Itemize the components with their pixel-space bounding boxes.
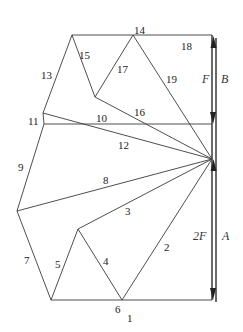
label-2F: 2F [193, 229, 207, 243]
label-11: 11 [28, 115, 39, 127]
label-14: 14 [134, 24, 146, 36]
arrow-down-icon [210, 112, 216, 124]
member-15-line [72, 35, 95, 97]
label-A: A [221, 229, 230, 243]
label-15: 15 [79, 49, 91, 61]
member-7-line [17, 211, 51, 300]
label-8: 8 [103, 174, 109, 186]
label-10: 10 [96, 112, 108, 124]
label-18: 18 [181, 40, 193, 52]
label-13: 13 [41, 69, 53, 81]
label-9: 9 [18, 161, 24, 173]
label-6: 6 [115, 303, 121, 315]
arrow-down-icon [210, 288, 216, 300]
member-4-line [78, 229, 122, 300]
label-19: 19 [166, 73, 178, 85]
label-5: 5 [55, 258, 61, 270]
load-lines [210, 35, 217, 302]
label-3: 3 [125, 205, 131, 217]
member-11-line [43, 113, 44, 124]
label-F: F [201, 72, 210, 86]
member-labels: 1 2 3 4 5 6 7 8 9 10 11 12 13 14 15 16 1… [18, 24, 193, 324]
member-16-line [95, 97, 212, 159]
label-16: 16 [134, 106, 146, 118]
label-17: 17 [117, 63, 129, 75]
label-2: 2 [164, 241, 170, 253]
label-4: 4 [103, 255, 109, 267]
force-diagram: 1 2 3 4 5 6 7 8 9 10 11 12 13 14 15 16 1… [0, 0, 243, 332]
label-1: 1 [127, 312, 133, 324]
member-8-line [17, 159, 212, 211]
label-12: 12 [118, 139, 129, 151]
label-B: B [221, 72, 229, 86]
member-3-line [78, 159, 212, 229]
label-7: 7 [24, 254, 30, 266]
